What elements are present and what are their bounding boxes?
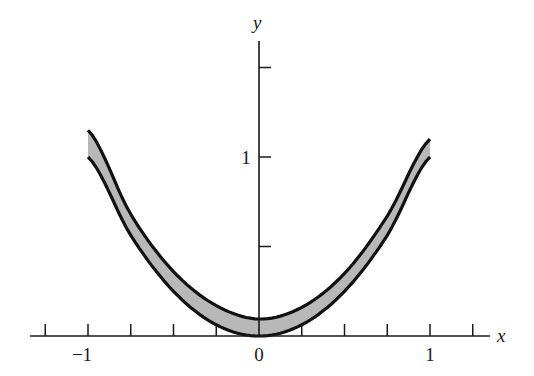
y-tick-label: 1 xyxy=(241,147,251,168)
x-tick-label: 0 xyxy=(254,344,264,365)
y-tick-labels: 1 xyxy=(241,147,251,168)
axes: −101 1 x y xyxy=(30,12,506,365)
x-tick-labels: −101 xyxy=(72,344,435,365)
x-tick-label: 1 xyxy=(425,344,435,365)
parabola-band-figure: −101 1 x y xyxy=(0,0,534,376)
y-ticks xyxy=(259,68,271,247)
x-tick-label: −1 xyxy=(72,344,92,365)
y-axis-label: y xyxy=(251,12,262,33)
x-axis-label: x xyxy=(496,325,506,346)
